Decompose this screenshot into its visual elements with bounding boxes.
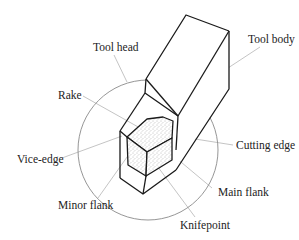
- label-knifepoint: Knifepoint: [180, 219, 231, 232]
- label-cutting-edge: Cutting edge: [236, 139, 295, 152]
- leader-tool-body: [228, 47, 260, 68]
- label-tool-body: Tool body: [248, 33, 295, 46]
- leader-minor-flank: [98, 150, 132, 198]
- turning-tool-diagram: Tool head Tool body Rake Cutting edge Vi…: [0, 0, 299, 240]
- leader-rake: [83, 96, 140, 128]
- label-main-flank: Main flank: [218, 186, 269, 198]
- label-tool-head: Tool head: [93, 41, 139, 53]
- label-minor-flank: Minor flank: [58, 199, 114, 211]
- label-rake: Rake: [58, 89, 82, 101]
- label-vice-edge: Vice-edge: [17, 153, 64, 166]
- leader-vice-edge: [62, 136, 122, 158]
- leader-tool-head: [114, 55, 127, 82]
- knifepoint-edge: [143, 176, 146, 194]
